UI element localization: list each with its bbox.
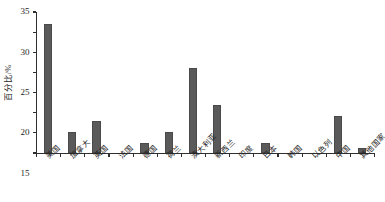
y-tick-label: 20	[21, 128, 30, 137]
x-axis-labels: 美国加拿大英国法国德国荷兰澳大利亚新西兰印度日本韩国以色列中国其他国家	[36, 155, 374, 202]
y-tick-label: 15	[21, 168, 30, 177]
y-tick-label: 30	[21, 47, 30, 56]
bars	[36, 12, 374, 153]
bar-chart: 百分比/% 05101520253035 美国加拿大英国法国德国荷兰澳大利亚新西…	[0, 0, 385, 202]
y-axis-title: 百分比/%	[0, 46, 14, 120]
bar	[44, 24, 53, 153]
y-tick-label: 25	[21, 87, 30, 96]
plot-area: 05101520253035	[36, 12, 374, 153]
y-tick-label: 35	[21, 7, 30, 16]
bar	[189, 68, 198, 153]
y-axis-title-text: 百分比/%	[1, 65, 13, 101]
x-tick	[374, 153, 375, 157]
